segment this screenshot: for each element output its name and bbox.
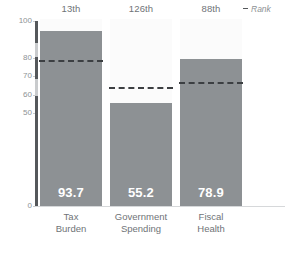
spine-gap-lower bbox=[35, 79, 38, 96]
y-tick-label-50: 50 bbox=[23, 109, 32, 117]
rank-label-government-spending: 126th bbox=[110, 2, 172, 16]
bar-group-government-spending[interactable]: 55.2 bbox=[110, 19, 172, 206]
x-axis-labels: Tax Burden Government Spending Fiscal He… bbox=[40, 211, 285, 251]
bar-value-fiscal-health: 78.9 bbox=[180, 185, 242, 200]
spine-gap-upper bbox=[35, 43, 38, 57]
y-tick-label-0: 0 bbox=[28, 202, 32, 210]
bar-value-government-spending: 55.2 bbox=[110, 185, 172, 200]
y-tick-label-70: 70 bbox=[23, 72, 32, 80]
category-label-tax-burden-line2: Burden bbox=[32, 223, 110, 235]
rank-row: 13th 126th 88th Rank bbox=[40, 2, 285, 18]
y-axis: 100 80 70 60 50 0 bbox=[0, 19, 40, 224]
bar-chart: 13th 126th 88th Rank 100 80 70 60 50 0 bbox=[0, 0, 285, 257]
y-tick-label-80: 80 bbox=[23, 54, 32, 62]
category-label-government-spending: Government Spending bbox=[102, 211, 180, 234]
category-label-government-spending-line1: Government bbox=[102, 211, 180, 223]
category-label-fiscal-health: Fiscal Health bbox=[172, 211, 250, 234]
bar-group-tax-burden[interactable]: 93.7 bbox=[40, 19, 102, 206]
bar-tax-burden[interactable] bbox=[40, 31, 102, 206]
average-line-tax-burden bbox=[39, 60, 103, 62]
y-tick-label-100: 100 bbox=[19, 17, 32, 25]
average-line-government-spending bbox=[109, 87, 173, 89]
x-axis-baseline bbox=[35, 206, 285, 207]
bar-group-fiscal-health[interactable]: 78.9 bbox=[180, 19, 242, 206]
category-label-fiscal-health-line2: Health bbox=[172, 223, 250, 235]
category-label-government-spending-line2: Spending bbox=[102, 223, 180, 235]
y-axis-spine bbox=[35, 21, 38, 206]
bar-value-tax-burden: 93.7 bbox=[40, 185, 102, 200]
plot-area: 93.7 55.2 78.9 bbox=[40, 19, 285, 206]
dashed-line-icon bbox=[243, 8, 248, 9]
category-label-tax-burden-line1: Tax bbox=[32, 211, 110, 223]
rank-legend: Rank bbox=[243, 2, 271, 16]
y-tick-label-60: 60 bbox=[23, 91, 32, 99]
category-label-tax-burden: Tax Burden bbox=[32, 211, 110, 234]
category-label-fiscal-health-line1: Fiscal bbox=[172, 211, 250, 223]
rank-label-tax-burden: 13th bbox=[40, 2, 102, 16]
rank-label-fiscal-health: 88th bbox=[180, 2, 242, 16]
average-line-fiscal-health bbox=[179, 82, 243, 84]
rank-legend-label: Rank bbox=[251, 4, 271, 14]
